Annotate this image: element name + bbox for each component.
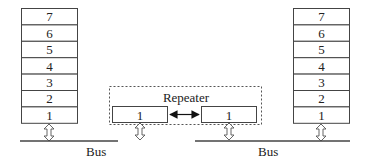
left-stack-layer-label: 5 — [46, 42, 53, 57]
repeater-right-port-label: 1 — [226, 108, 233, 123]
right-stack-layer-label: 1 — [318, 108, 325, 123]
left-stack-layer-label: 2 — [46, 91, 53, 106]
left-protocol-stack: 7654321 — [22, 9, 78, 124]
left-stack-layer-label: 6 — [46, 26, 53, 41]
repeater-right-bus-connector-icon — [224, 123, 234, 140]
left-stack-bus-connector-icon — [44, 124, 54, 141]
right-protocol-stack: 7654321 — [294, 9, 350, 124]
right-stack-layer-label: 7 — [318, 9, 325, 24]
right-stack-layer-label: 4 — [318, 59, 325, 74]
repeater: Repeater 1 1 — [110, 87, 262, 141]
right-stack-layer-label: 2 — [318, 91, 325, 106]
left-stack-layer-label: 3 — [46, 75, 53, 90]
right-stack-layer-label: 3 — [318, 75, 325, 90]
repeater-left-port-label: 1 — [137, 108, 144, 123]
osi-repeater-diagram: 7654321 7654321 Bus Bus Repeater 1 1 — [0, 0, 369, 160]
left-stack-layer-label: 1 — [46, 108, 53, 123]
left-bus-label: Bus — [86, 144, 106, 159]
right-stack-layer-label: 5 — [318, 42, 325, 57]
repeater-left-bus-connector-icon — [135, 123, 145, 140]
left-stack-layer-label: 4 — [46, 59, 53, 74]
right-bus-label: Bus — [258, 144, 278, 159]
left-stack-layer-label: 7 — [46, 9, 53, 24]
repeater-label: Repeater — [163, 90, 210, 105]
right-stack-layer-label: 6 — [318, 26, 325, 41]
right-stack-bus-connector-icon — [316, 124, 326, 141]
